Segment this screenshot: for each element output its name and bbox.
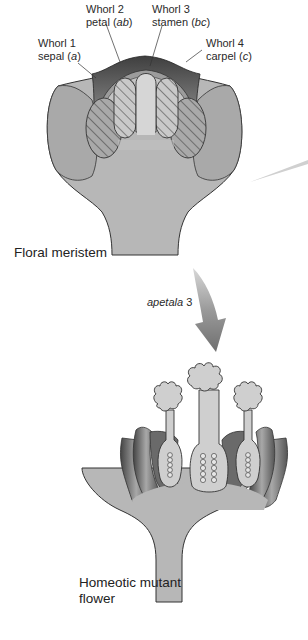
diagram-canvas xyxy=(0,0,308,640)
pointer-line xyxy=(250,160,308,182)
caption-floral-meristem: Floral meristem xyxy=(14,245,107,261)
transition-arrow xyxy=(193,268,226,352)
mutation-label: apetala 3 xyxy=(147,296,192,309)
label-whorl-3: Whorl 3 stamen (bc) xyxy=(152,3,210,29)
floral-meristem-shape xyxy=(47,56,242,255)
label-whorl-4: Whorl 4 carpel (c) xyxy=(206,37,252,63)
caption-homeotic-mutant: Homeotic mutant flower xyxy=(79,575,181,607)
label-whorl-2: Whorl 2 petal (ab) xyxy=(86,3,133,29)
mutant-flower-shape xyxy=(82,363,288,602)
label-whorl-1: Whorl 1 sepal (a) xyxy=(38,37,81,63)
